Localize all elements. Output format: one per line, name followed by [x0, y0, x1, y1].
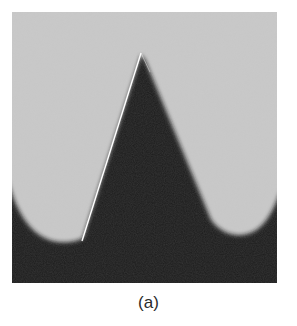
- micrograph-figure: [0, 0, 297, 326]
- figure-caption: (a): [0, 293, 297, 313]
